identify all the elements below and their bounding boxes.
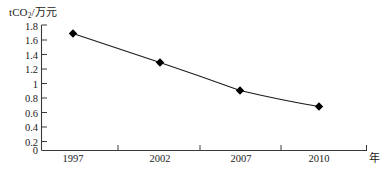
- data-point-markers: [69, 29, 323, 110]
- data-series-line: [73, 34, 319, 107]
- y-axis: [42, 25, 48, 150]
- x-axis: [42, 145, 368, 151]
- co2-intensity-line-chart: tCO2/万元 年 1.8 1.6 1.4 1.2 1 0.8 0.6 0.4 …: [0, 0, 390, 182]
- plot-area: [0, 0, 390, 182]
